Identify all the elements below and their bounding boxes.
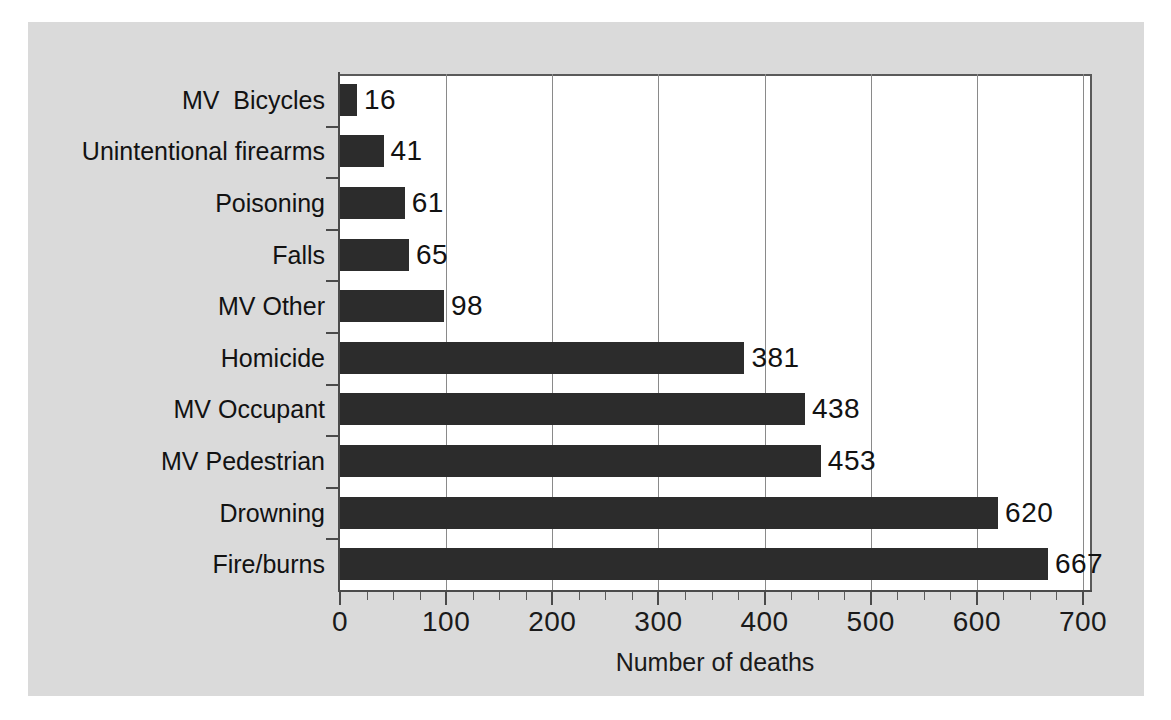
x-tick-minor-525 [897,592,898,600]
x-axis-line [338,590,1092,592]
category-label-8: Drowning [0,498,325,527]
bar-value-label-2: 61 [412,187,444,219]
category-label-6: MV Occupant [0,395,325,424]
bar-value-label-1: 41 [391,135,423,167]
x-tick-label-100: 100 [422,606,470,638]
bar-9 [340,548,1048,580]
x-tick-minor-250 [605,592,606,600]
bar-4 [340,290,444,322]
bar-7 [340,445,821,477]
bar-0 [340,84,357,116]
x-tick-minor-425 [791,592,792,600]
bar-value-label-3: 65 [416,239,448,271]
x-tick-major-400 [764,592,766,605]
x-tick-major-200 [551,592,553,605]
bar-value-label-4: 98 [451,290,483,322]
x-tick-minor-75 [420,592,421,600]
category-label-7: MV Pedestrian [0,447,325,476]
y-tick-4 [326,280,339,282]
category-label-9: Fire/burns [0,550,325,579]
x-tick-minor-125 [473,592,474,600]
x-tick-minor-550 [924,592,925,600]
x-tick-minor-25 [367,592,368,600]
y-tick-3 [326,229,339,231]
y-tick-7 [326,435,339,437]
y-tick-8 [326,487,339,489]
category-label-2: Poisoning [0,189,325,218]
x-tick-label-400: 400 [740,606,788,638]
gridline-700 [1083,74,1084,590]
x-tick-minor-575 [950,592,951,600]
chart-figure: 0100200300400500600700 MV BicyclesUninte… [0,0,1171,720]
y-tick-6 [326,384,339,386]
x-tick-minor-175 [526,592,527,600]
category-label-5: Homicide [0,343,325,372]
y-tick-9 [326,538,339,540]
x-tick-minor-50 [393,592,394,600]
x-tick-label-500: 500 [847,606,895,638]
bar-value-label-7: 453 [828,445,876,477]
category-label-1: Unintentional firearms [0,137,325,166]
category-label-0: MV Bicycles [0,85,325,114]
category-label-4: MV Other [0,292,325,321]
x-tick-major-700 [1082,592,1084,605]
x-tick-label-700: 700 [1059,606,1107,638]
x-tick-minor-150 [499,592,500,600]
x-tick-major-300 [657,592,659,605]
x-tick-minor-625 [1003,592,1004,600]
x-tick-minor-325 [685,592,686,600]
category-labels: MV BicyclesUnintentional firearmsPoisoni… [0,0,325,720]
x-axis-title: Number of deaths [338,648,1092,677]
x-tick-major-0 [339,592,341,605]
x-tick-label-0: 0 [332,606,348,638]
bar-value-label-9: 667 [1055,548,1103,580]
bar-8 [340,497,998,529]
x-tick-minor-650 [1030,592,1031,600]
x-tick-minor-450 [818,592,819,600]
bar-value-label-6: 438 [812,393,860,425]
bar-5 [340,342,744,374]
x-tick-label-600: 600 [953,606,1001,638]
bar-2 [340,187,405,219]
x-tick-major-100 [445,592,447,605]
bar-value-label-0: 16 [364,84,396,116]
bar-3 [340,239,409,271]
bar-value-label-5: 381 [751,342,799,374]
x-tick-major-500 [870,592,872,605]
bar-1 [340,135,384,167]
x-tick-minor-350 [712,592,713,600]
y-tick-1 [326,126,339,128]
category-label-3: Falls [0,240,325,269]
x-tick-minor-475 [844,592,845,600]
y-tick-2 [326,177,339,179]
x-tick-label-200: 200 [528,606,576,638]
x-tick-major-600 [976,592,978,605]
x-tick-minor-225 [579,592,580,600]
x-tick-minor-675 [1056,592,1057,600]
y-tick-5 [326,332,339,334]
bar-value-label-8: 620 [1005,497,1053,529]
x-tick-minor-375 [738,592,739,600]
bar-6 [340,393,805,425]
x-tick-label-300: 300 [634,606,682,638]
x-tick-minor-275 [632,592,633,600]
